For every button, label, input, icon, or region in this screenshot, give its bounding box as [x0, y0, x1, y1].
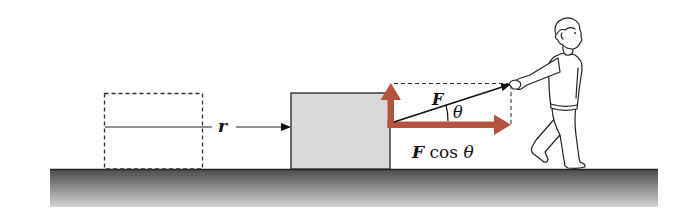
force-label: F	[431, 90, 445, 109]
displacement-label: r	[218, 116, 228, 136]
block	[291, 93, 390, 169]
horizontal-component-label: F cos θ	[411, 142, 474, 162]
ground	[50, 169, 658, 207]
work-diagram: r F θ F cos θ	[0, 0, 691, 222]
person-pulling	[509, 18, 585, 168]
force-vector	[394, 85, 510, 123]
angle-label: θ	[453, 103, 463, 122]
angle-arc	[446, 106, 448, 122]
initial-block-outline	[105, 94, 203, 170]
